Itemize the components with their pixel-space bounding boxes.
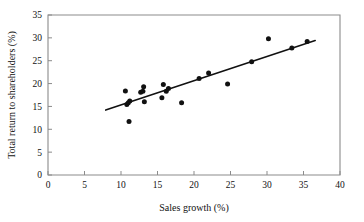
y-tick-label: 25	[33, 56, 43, 66]
scatter-chart: 0510152025303540 05101520253035 Sales gr…	[0, 0, 364, 222]
x-axis-ticks: 0510152025303540	[46, 171, 345, 190]
y-tick-label: 15	[33, 102, 43, 112]
y-axis-ticks: 05101520253035	[33, 10, 53, 180]
x-tick-label: 25	[226, 180, 236, 190]
y-tick-label: 10	[33, 125, 43, 135]
data-point-marker	[141, 84, 146, 89]
data-point-marker	[179, 100, 184, 105]
data-point-marker	[123, 88, 128, 93]
y-tick-label: 20	[33, 79, 43, 89]
plot-frame	[48, 15, 340, 175]
data-point-marker	[142, 99, 147, 104]
y-tick-label: 30	[33, 33, 43, 43]
data-point-marker	[159, 95, 164, 100]
data-points	[123, 36, 310, 124]
x-tick-label: 5	[82, 180, 87, 190]
data-point-marker	[161, 82, 166, 87]
trend-line	[106, 41, 316, 110]
data-point-marker	[225, 82, 230, 87]
y-tick-label: 5	[37, 148, 42, 158]
x-tick-label: 30	[262, 180, 272, 190]
y-tick-label: 0	[37, 170, 42, 180]
y-tick-label: 35	[33, 10, 43, 20]
x-tick-label: 40	[335, 180, 345, 190]
x-tick-label: 10	[116, 180, 126, 190]
x-axis-title: Sales growth (%)	[159, 202, 228, 214]
data-point-marker	[140, 89, 145, 94]
x-tick-label: 0	[46, 180, 51, 190]
data-point-marker	[266, 36, 271, 41]
x-tick-label: 35	[299, 180, 309, 190]
regression-line	[106, 41, 316, 110]
plot-svg: 0510152025303540 05101520253035 Sales gr…	[0, 0, 364, 222]
plot-border	[48, 15, 340, 175]
y-axis-title: Total return to shareholders (%)	[6, 31, 18, 159]
x-tick-label: 15	[153, 180, 163, 190]
x-tick-label: 20	[189, 180, 199, 190]
data-point-marker	[127, 119, 132, 124]
